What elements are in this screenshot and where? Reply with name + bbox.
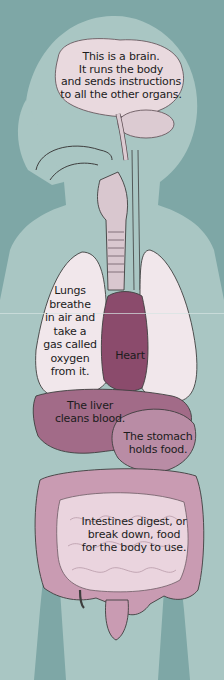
heart-label: Heart [110, 350, 150, 363]
brain-label: This is a brain. It runs the body and se… [58, 51, 184, 101]
image-seam [0, 313, 224, 314]
body-diagram: This is a brain. It runs the body and se… [0, 0, 224, 680]
stomach-label: The stomach holds food. [118, 431, 198, 456]
lungs-label: Lungs breathe in air and take a gas call… [36, 284, 104, 379]
heart [101, 292, 148, 392]
intestines-label: Intestines digest, or break down, food f… [74, 516, 194, 554]
liver-label: The liver cleans blood. [50, 400, 130, 425]
anatomy-illustration [0, 0, 224, 680]
